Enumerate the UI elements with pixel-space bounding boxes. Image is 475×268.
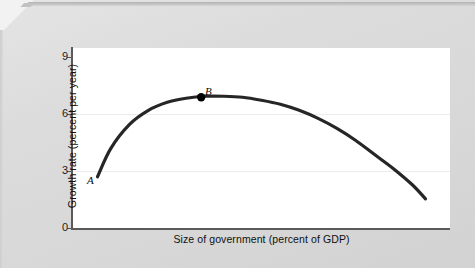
point-a-label: A [87,174,94,186]
growth-curve-path [98,96,426,199]
point-b-label: B [205,85,212,97]
growth-curve [73,48,450,229]
y-tick-label-0: 0 [46,222,68,232]
x-axis-title: Size of government (percent of GDP) [73,233,450,245]
growth-rate-vs-government-size-chart: 9 6 3 0 Growth rate (percent per year) S… [0,0,475,268]
y-axis-title-wrapper: Growth rate (percent per year) [44,22,62,222]
